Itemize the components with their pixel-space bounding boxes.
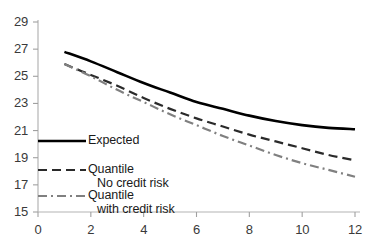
y-tick-label-29: 29 — [2, 14, 28, 29]
legend-swatches — [38, 141, 86, 196]
x-tick-label-4: 4 — [131, 222, 157, 237]
chart-series-group — [64, 52, 355, 177]
legend-label-1: Quantile — [88, 162, 134, 176]
x-tick-label-2: 2 — [78, 222, 104, 237]
y-axis-ticks — [33, 22, 38, 212]
y-tick-label-19: 19 — [2, 150, 28, 165]
y-tick-label-17: 17 — [2, 177, 28, 192]
x-tick-label-6: 6 — [184, 222, 210, 237]
x-axis-ticks — [38, 212, 355, 217]
series-line-0 — [64, 52, 355, 129]
chart-plot-area — [0, 0, 371, 245]
x-tick-label-8: 8 — [236, 222, 262, 237]
y-tick-label-23: 23 — [2, 95, 28, 110]
y-tick-label-15: 15 — [2, 204, 28, 219]
legend-label-0: Expected — [88, 133, 139, 147]
y-tick-label-25: 25 — [2, 68, 28, 83]
chart-container: 1517192123252729 024681012 ExpectedQuant… — [0, 0, 371, 245]
legend-label-2: Quantile — [88, 188, 134, 202]
y-tick-label-21: 21 — [2, 123, 28, 138]
y-tick-label-27: 27 — [2, 41, 28, 56]
x-tick-label-10: 10 — [289, 222, 315, 237]
x-tick-label-0: 0 — [25, 222, 51, 237]
x-tick-label-12: 12 — [342, 222, 368, 237]
axis-lines — [38, 20, 360, 212]
legend-sublabel-2: with credit risk — [97, 202, 175, 216]
